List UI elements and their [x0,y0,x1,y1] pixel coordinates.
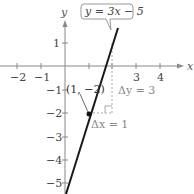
y-tick-label: −1 [46,84,62,97]
y-axis-arrow-icon [63,20,68,27]
point-1-neg2 [87,112,92,117]
x-tick-label: 3 [133,71,140,84]
y-tick-label: −5 [46,177,62,190]
x-tick-label: 4 [157,71,164,84]
x-tick-label: −2 [10,71,26,84]
delta-x-label: Δx = 1 [91,118,128,131]
equation-label: y = 3x − 5 [84,5,144,18]
x-axis-label: x [187,60,194,73]
y-tick-label: −2 [46,107,62,120]
y-axis-label: y [60,6,68,19]
y-tick-label: 1 [53,37,60,50]
line-graph: x y −2 −1 3 4 1 −1 −2 −3 −4 −5 (1, −2) [0,0,194,194]
x-axis-arrow-icon [177,64,184,69]
delta-y-label: Δy = 3 [118,84,155,97]
point-label: (1, −2) [66,83,105,96]
y-tick-label: −3 [46,131,62,144]
line-y-3x-minus-5 [66,28,118,194]
slope-triangle [89,43,112,113]
y-tick-label: −4 [46,154,62,167]
point-label-leader [80,94,88,112]
right-angle-marker [105,106,112,113]
x-tick-label: −1 [34,71,50,84]
